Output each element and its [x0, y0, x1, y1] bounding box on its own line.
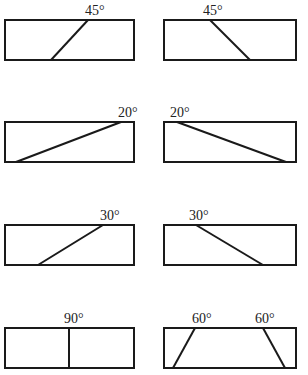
panel-row2-left: 20° — [5, 105, 138, 162]
cut-line-left — [173, 328, 195, 368]
cut-line — [51, 20, 88, 60]
angle-label: 45° — [203, 3, 223, 18]
angle-label: 45° — [85, 3, 105, 18]
panel-row1-left: 45° — [5, 3, 134, 60]
panel-row1-right: 45° — [164, 3, 296, 60]
angle-label-left: 60° — [192, 311, 212, 326]
angle-label: 90° — [64, 311, 84, 326]
panel-row4-left: 90° — [5, 311, 134, 368]
cut-line — [38, 225, 103, 265]
cut-line — [210, 20, 250, 60]
angle-label: 20° — [118, 105, 138, 120]
cut-line — [177, 122, 286, 162]
angle-label: 30° — [189, 208, 209, 223]
angle-label: 20° — [170, 105, 190, 120]
panel-row3-right: 30° — [164, 208, 296, 265]
angle-label-right: 60° — [255, 311, 275, 326]
angle-label: 30° — [100, 208, 120, 223]
cut-line — [196, 225, 263, 265]
cut-line — [16, 122, 121, 162]
miter-cut-diagram: 45° 45° 20° 20° 30° 30° 90° 60° 60° — [0, 0, 308, 375]
panel-row4-right: 60° 60° — [164, 311, 296, 368]
cut-line-right — [263, 328, 285, 368]
panel-row2-right: 20° — [164, 105, 296, 162]
panel-row3-left: 30° — [5, 208, 134, 265]
